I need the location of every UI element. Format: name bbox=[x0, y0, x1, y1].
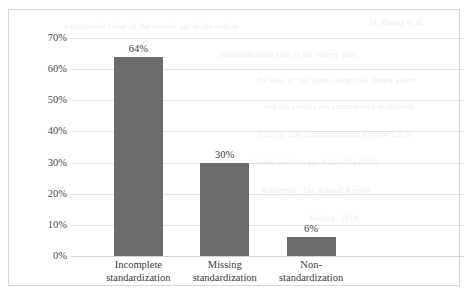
y-axis-tick-label: 50% bbox=[25, 95, 67, 105]
bleed-line: a compared value of the sample set in th… bbox=[64, 22, 238, 31]
bar bbox=[287, 237, 336, 256]
y-axis-tick-label: 70% bbox=[25, 33, 67, 43]
y-axis-tick-label: 30% bbox=[25, 158, 67, 168]
y-axis-tick-label: 10% bbox=[25, 220, 67, 230]
bar bbox=[200, 163, 249, 256]
axis-baseline bbox=[71, 256, 464, 257]
y-axis-tick-label: 20% bbox=[25, 189, 67, 199]
plot-area: 64%30%6% bbox=[71, 38, 464, 256]
bleed-line: M. Huang et al. bbox=[369, 18, 425, 27]
bar-value-label: 6% bbox=[271, 223, 352, 234]
x-axis: IncompletestandardizationMissingstandard… bbox=[71, 259, 464, 291]
x-axis-category-label: Non-standardization bbox=[256, 259, 366, 284]
x-axis-category-line: standardization bbox=[256, 272, 366, 285]
y-axis-tick-label: 0% bbox=[25, 251, 67, 261]
bar bbox=[114, 57, 163, 256]
y-axis-tick-label: 40% bbox=[25, 126, 67, 136]
bar-value-label: 64% bbox=[98, 43, 179, 54]
x-axis-category-line: Non- bbox=[256, 259, 366, 272]
y-axis: 70%60%50%40%30%20%10%0% bbox=[21, 38, 67, 256]
chart-container: a compared value of the sample set in th… bbox=[8, 9, 460, 286]
gridline bbox=[71, 38, 464, 39]
y-axis-tick-label: 60% bbox=[25, 64, 67, 74]
bar-value-label: 30% bbox=[184, 149, 265, 160]
